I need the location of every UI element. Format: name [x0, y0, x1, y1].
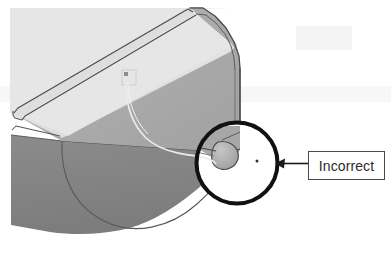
callout-box-incorrect: Incorrect: [308, 151, 385, 180]
defect-point-dot: [256, 160, 259, 163]
cad-model-viewport: [0, 0, 391, 256]
detail-circle-group: [196, 123, 278, 204]
callout-label-text: Incorrect: [319, 159, 374, 173]
screenshot-root: Incorrect: [0, 0, 391, 256]
